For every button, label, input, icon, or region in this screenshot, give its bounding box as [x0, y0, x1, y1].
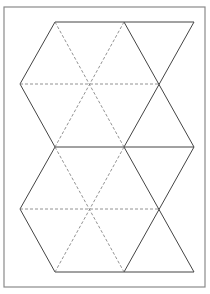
cut-line — [20, 22, 55, 84]
cut-line — [20, 209, 55, 272]
cut-line — [20, 84, 55, 147]
hexaflexagon-template — [0, 0, 210, 294]
cut-lines — [20, 22, 194, 272]
cut-line — [20, 147, 55, 209]
